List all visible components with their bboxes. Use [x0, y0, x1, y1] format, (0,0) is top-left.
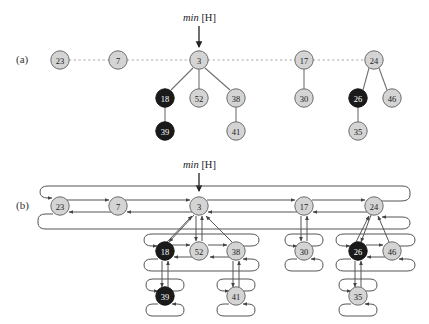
- heap-node-3[interactable]: 3: [190, 51, 208, 69]
- figure-container: (a) min [H] min [H] (b): [0, 0, 429, 324]
- node-key-label: 7: [116, 56, 120, 66]
- node-key-label: 46: [388, 247, 397, 257]
- node-key-label: 23: [56, 56, 65, 66]
- node-key-label: 52: [195, 94, 204, 104]
- heap-node-30[interactable]: 30: [295, 89, 313, 107]
- heap-node-7[interactable]: 7: [109, 197, 127, 215]
- node-key-label: 30: [300, 247, 309, 257]
- sibling-list-loops-b: [144, 234, 415, 316]
- node-key-label: 46: [388, 94, 397, 104]
- diagram-svg: 23731724185238302646394135: [0, 0, 429, 324]
- node-key-label: 24: [370, 202, 379, 212]
- heap-node-18[interactable]: 18: [156, 89, 174, 107]
- nodes-group-a: 23731724185238302646394135: [51, 51, 401, 140]
- node-key-label: 39: [161, 292, 170, 302]
- heap-node-26[interactable]: 26: [349, 242, 367, 260]
- heap-node-41[interactable]: 41: [227, 122, 245, 140]
- node-key-label: 18: [161, 94, 170, 104]
- heap-node-35[interactable]: 35: [349, 287, 367, 305]
- heap-node-17[interactable]: 17: [295, 51, 313, 69]
- node-key-label: 3: [197, 56, 201, 66]
- heap-node-46[interactable]: 46: [383, 89, 401, 107]
- heap-node-23[interactable]: 23: [51, 197, 69, 215]
- node-key-label: 30: [300, 94, 309, 104]
- root-list-pointers-b: [38, 186, 410, 229]
- node-key-label: 26: [354, 247, 363, 257]
- heap-node-52[interactable]: 52: [190, 89, 208, 107]
- heap-node-35[interactable]: 35: [349, 122, 367, 140]
- node-key-label: 52: [195, 247, 204, 257]
- nodes-group-b: 23731724185238302646394135: [51, 197, 401, 305]
- heap-node-23[interactable]: 23: [51, 51, 69, 69]
- heap-node-24[interactable]: 24: [365, 197, 383, 215]
- node-key-label: 35: [354, 127, 363, 137]
- node-key-label: 17: [300, 56, 309, 66]
- heap-node-24[interactable]: 24: [365, 51, 383, 69]
- heap-node-3[interactable]: 3: [190, 197, 208, 215]
- node-key-label: 24: [370, 56, 379, 66]
- heap-node-52[interactable]: 52: [190, 242, 208, 260]
- node-key-label: 23: [56, 202, 65, 212]
- node-key-label: 41: [232, 292, 241, 302]
- node-key-label: 35: [354, 292, 363, 302]
- node-key-label: 3: [197, 202, 201, 212]
- heap-node-46[interactable]: 46: [383, 242, 401, 260]
- node-key-label: 41: [232, 127, 241, 137]
- node-key-label: 7: [116, 202, 120, 212]
- heap-node-38[interactable]: 38: [227, 89, 245, 107]
- heap-node-39[interactable]: 39: [156, 287, 174, 305]
- node-key-label: 39: [161, 127, 170, 137]
- heap-node-17[interactable]: 17: [295, 197, 313, 215]
- node-key-label: 17: [300, 202, 309, 212]
- heap-node-38[interactable]: 38: [227, 242, 245, 260]
- node-key-label: 38: [232, 247, 241, 257]
- node-key-label: 38: [232, 94, 241, 104]
- heap-node-7[interactable]: 7: [109, 51, 127, 69]
- heap-node-39[interactable]: 39: [156, 122, 174, 140]
- node-key-label: 18: [161, 247, 170, 257]
- node-key-label: 26: [354, 94, 363, 104]
- heap-node-18[interactable]: 18: [156, 242, 174, 260]
- heap-node-26[interactable]: 26: [349, 89, 367, 107]
- heap-node-41[interactable]: 41: [227, 287, 245, 305]
- heap-node-30[interactable]: 30: [295, 242, 313, 260]
